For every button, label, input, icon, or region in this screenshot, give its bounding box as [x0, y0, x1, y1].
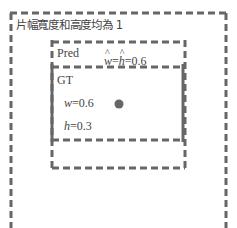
pred-label: Pred — [57, 47, 79, 59]
pred-h-symbol: h — [119, 55, 125, 67]
gt-w-value: =0.6 — [72, 96, 94, 110]
diagram-canvas — [0, 0, 237, 228]
gt-label: GT — [57, 74, 73, 86]
pred-size-annotation: w=h=0.6 — [104, 55, 147, 67]
gt-width-label: w=0.6 — [64, 97, 94, 109]
gt-height-label: h=0.3 — [64, 120, 92, 132]
pred-w-symbol: w — [104, 55, 112, 67]
outer-box — [10, 13, 227, 228]
pred-eq: = — [112, 54, 119, 68]
center-point — [115, 100, 124, 109]
pred-size-value: =0.6 — [125, 54, 147, 68]
gt-h-value: =0.3 — [70, 119, 92, 133]
gt-w-symbol: w — [64, 96, 72, 110]
outer-box-label: 片幅寬度和高度均為 1 — [16, 20, 123, 32]
